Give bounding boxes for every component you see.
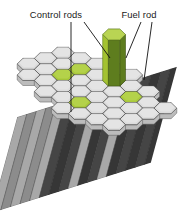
raised-control-rod-left-face: [103, 34, 109, 86]
raised-control-rod-right-face: [120, 34, 126, 86]
diagram-canvas: Control rods Fuel rod: [0, 0, 193, 222]
label-control-rods: Control rods: [30, 9, 82, 20]
raised-control-rod-group: [103, 29, 126, 86]
label-fuel-rod: Fuel rod: [121, 9, 156, 20]
reactor-core-diagram: Control rods Fuel rod: [0, 0, 193, 222]
raised-control-rod-front-face: [108, 40, 119, 86]
